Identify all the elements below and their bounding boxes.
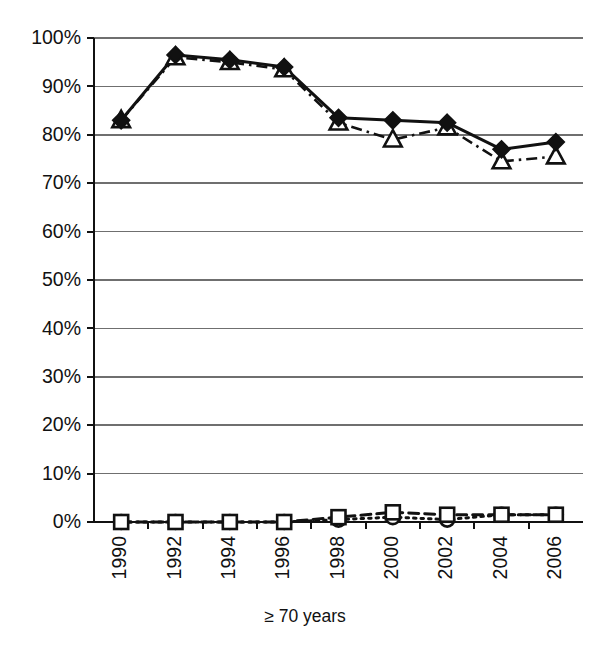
series-markers: [112, 46, 564, 529]
filled-diamond-marker: [547, 134, 564, 151]
open-square-marker: [114, 515, 128, 529]
y-tick-label: 80%: [42, 123, 81, 145]
y-tick-label: 20%: [42, 413, 81, 435]
gridlines: [94, 38, 583, 474]
x-tick-label: 1994: [217, 536, 239, 580]
y-tick-label: 10%: [42, 462, 81, 484]
y-axis-tick-labels: 0%10%20%30%40%50%60%70%80%90%100%: [31, 26, 81, 532]
filled-diamond-marker: [384, 112, 401, 129]
open-square-marker: [223, 515, 237, 529]
open-square-marker: [332, 510, 346, 524]
x-axis-tick-labels: 199019921994199619982000200220042006: [108, 536, 565, 580]
y-tick-label: 90%: [42, 75, 81, 97]
y-tick-label: 70%: [42, 171, 81, 193]
x-tick-label: 1998: [326, 536, 348, 579]
x-tick-label: 1996: [271, 536, 293, 579]
chart-container: 0%10%20%30%40%50%60%70%80%90%100% 199019…: [0, 0, 600, 653]
open-square-marker: [277, 515, 291, 529]
y-tick-label: 100%: [31, 26, 81, 48]
open-square-marker: [495, 508, 509, 522]
line-chart: 0%10%20%30%40%50%60%70%80%90%100% 199019…: [0, 0, 600, 653]
open-square-marker: [549, 508, 563, 522]
x-tick-label: 1990: [108, 536, 130, 580]
y-tick-label: 30%: [42, 365, 81, 387]
open-square-marker: [169, 515, 183, 529]
x-tick-label: 1992: [163, 536, 185, 579]
open-square-marker: [386, 505, 400, 519]
y-tick-label: 50%: [42, 268, 81, 290]
series-markers-lower-open-square: [114, 505, 563, 529]
x-axis-title: ≥ 70 years: [264, 606, 346, 626]
y-tick-label: 0%: [53, 510, 81, 532]
open-square-marker: [440, 508, 454, 522]
y-tick-label: 60%: [42, 220, 81, 242]
x-tick-label: 2002: [434, 536, 456, 579]
x-tick-label: 2004: [489, 536, 511, 580]
y-tick-label: 40%: [42, 317, 81, 339]
x-tick-label: 2006: [543, 536, 565, 579]
filled-diamond-marker: [493, 141, 510, 158]
x-tick-label: 2000: [380, 536, 402, 580]
